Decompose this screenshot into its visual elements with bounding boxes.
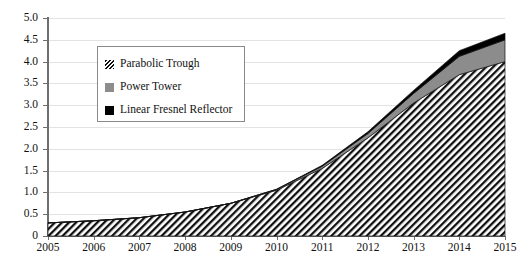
legend-item-linear-fresnel-reflector: Linear Fresnel Reflector	[105, 99, 237, 121]
legend-item-power-tower: Power Tower	[105, 76, 237, 98]
legend-label-parabolic-trough: Parabolic Trough	[120, 58, 200, 70]
gray-square-swatch-icon	[105, 83, 114, 92]
black-square-swatch-icon	[105, 106, 114, 115]
chart-root: 00.51.01.52.02.53.03.54.04.55.0 20052006…	[0, 0, 519, 267]
legend-item-parabolic-trough: Parabolic Trough	[105, 53, 237, 75]
hatch-swatch-icon	[105, 60, 114, 69]
chart-legend: Parabolic Trough Power Tower Linear Fres…	[97, 46, 245, 122]
legend-label-power-tower: Power Tower	[120, 81, 181, 93]
legend-label-linear-fresnel-reflector: Linear Fresnel Reflector	[120, 104, 232, 116]
stacked-area-plot	[0, 0, 519, 267]
